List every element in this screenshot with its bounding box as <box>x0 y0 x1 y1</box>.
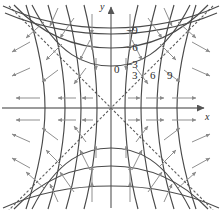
figure-canvas: −9 −6 −3 0 3 6 9 y x <box>0 0 220 210</box>
x-axis-label: x <box>205 111 209 122</box>
contour-left-3 <box>84 5 97 209</box>
y-axis-label: y <box>100 1 104 12</box>
contour-label-neg9: −9 <box>126 24 138 36</box>
field-arrow <box>12 42 30 52</box>
contour-plot-svg <box>0 0 220 210</box>
field-arrow <box>12 158 30 168</box>
contour-label-0: 0 <box>114 63 120 75</box>
contour-left-9 <box>48 5 65 209</box>
field-arrow <box>42 128 58 140</box>
field-arrow <box>192 42 210 52</box>
field-arrow <box>46 150 62 166</box>
field-arrow <box>12 134 30 142</box>
field-arrow <box>192 68 210 76</box>
field-arrow <box>192 158 210 168</box>
field-arrow <box>42 70 58 82</box>
contour-label-neg6: −6 <box>126 41 138 53</box>
field-arrow <box>192 134 210 142</box>
field-arrow <box>178 172 196 188</box>
field-arrow <box>160 150 176 166</box>
field-arrow <box>164 128 180 140</box>
field-arrow <box>12 68 30 76</box>
contour-label-9: 9 <box>167 69 173 81</box>
contour-label-6: 6 <box>150 69 156 81</box>
contour-right-9 <box>157 5 174 209</box>
contour-right-6 <box>141 5 156 209</box>
field-arrow <box>26 172 44 188</box>
contour-label-3: 3 <box>132 69 138 81</box>
contour-left-6 <box>66 5 81 209</box>
